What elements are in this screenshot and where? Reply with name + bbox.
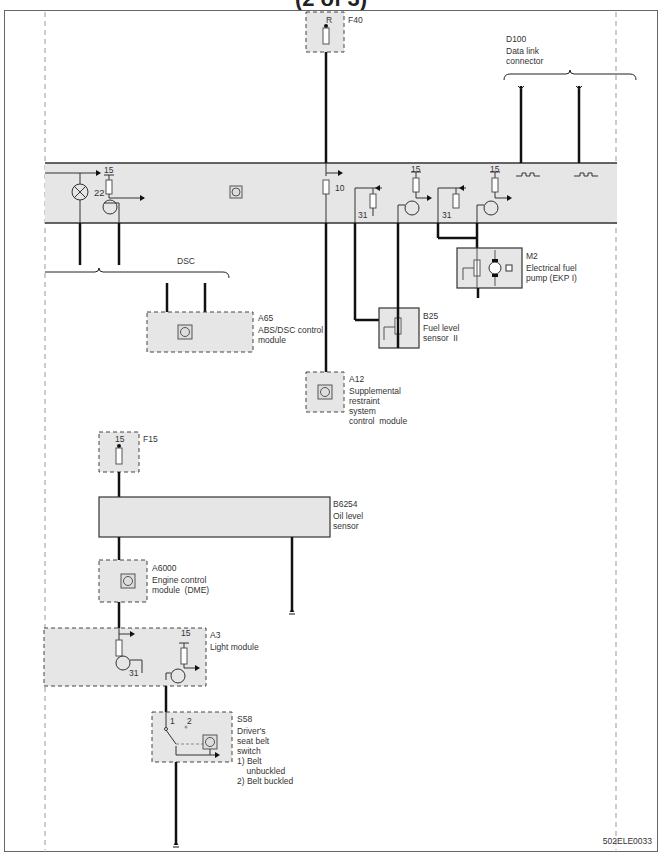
f40-terminal: R xyxy=(326,15,332,25)
s58-name: Driver's seat belt switch xyxy=(237,726,269,756)
a6000-name: Engine control module (DME) xyxy=(152,575,209,595)
s58-note1: 1) Belt unbuckled xyxy=(237,756,285,776)
terminal-15-c: 15 xyxy=(490,164,499,174)
terminal-15-b: 15 xyxy=(411,164,420,174)
m2-name: Electrical fuel pump (EKP I) xyxy=(526,263,577,283)
a3-terminal-31: 31 xyxy=(129,668,138,678)
resistor-10-label: 10 xyxy=(335,183,344,193)
a3-id: A3 xyxy=(210,630,220,640)
wiring-diagram xyxy=(0,0,662,858)
diagram-code: 502ELE0033 xyxy=(603,836,652,846)
terminal-31-b: 31 xyxy=(442,210,451,220)
a65-name: ABS/DSC control module xyxy=(258,325,323,345)
a12-id: A12 xyxy=(349,374,364,384)
a3-terminal-15: 15 xyxy=(181,628,190,638)
d100-name: Data link connector xyxy=(506,46,543,66)
f15-id: F15 xyxy=(143,434,158,444)
a12-name: Supplemental restraint system control mo… xyxy=(349,386,407,426)
s58-pos1: 1 xyxy=(170,716,175,726)
m2-id: M2 xyxy=(526,251,538,261)
s58-pos2: 2 xyxy=(187,716,192,726)
s58-note2: 2) Belt buckled xyxy=(237,776,293,786)
terminal-31-a: 31 xyxy=(358,210,367,220)
dsc-label: DSC xyxy=(177,256,195,266)
lamp-22-label: 22 xyxy=(94,188,105,198)
a3-name: Light module xyxy=(210,642,259,652)
a6000-id: A6000 xyxy=(152,563,177,573)
b25-id: B25 xyxy=(423,311,438,321)
d100-id: D100 xyxy=(506,34,526,44)
a65-id: A65 xyxy=(258,313,273,323)
f15-terminal: 15 xyxy=(115,434,124,444)
terminal-15-a: 15 xyxy=(104,165,113,175)
b25-name: Fuel level sensor II xyxy=(423,323,459,343)
b6254-id: B6254 xyxy=(333,499,358,509)
s58-id: S58 xyxy=(237,714,252,724)
f40-label: F40 xyxy=(348,15,363,25)
b6254-name: Oil level sensor xyxy=(333,511,363,531)
